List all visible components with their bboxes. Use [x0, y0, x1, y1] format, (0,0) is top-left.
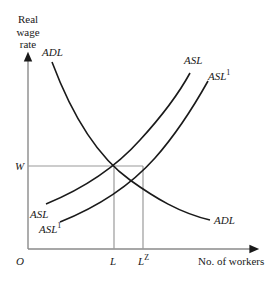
- adl-label-bottom: ADL: [213, 214, 235, 226]
- labour-market-diagram: Real wage rate ADL ADL ASL ASL ASL1 ASL1…: [0, 0, 274, 285]
- asl-curve: [46, 73, 190, 204]
- y-axis-label-line3: rate: [20, 38, 37, 50]
- adl-label-top: ADL: [41, 46, 63, 58]
- asl-label-top: ASL: [183, 54, 202, 66]
- asl1-curve: [60, 81, 208, 222]
- lz-tick-label: LZ: [137, 253, 149, 267]
- wage-label: W: [15, 160, 25, 172]
- l-tick-label: L: [109, 255, 116, 267]
- asl1-label-top: ASL1: [207, 68, 230, 82]
- origin-label: O: [16, 255, 24, 267]
- y-axis-label-line1: Real: [18, 13, 38, 25]
- adl-curve: [52, 62, 210, 220]
- asl-label-bottom: ASL: [29, 208, 48, 220]
- y-axis-label-line2: wage: [16, 26, 39, 38]
- asl1-label-bottom: ASL1: [38, 221, 61, 235]
- x-axis-label: No. of workers: [198, 255, 264, 267]
